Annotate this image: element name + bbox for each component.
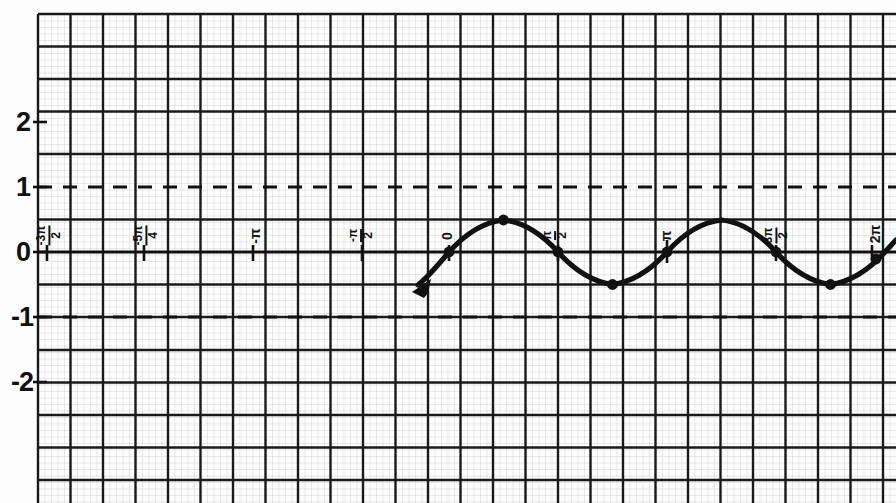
y-tick-label-negative-1: -1 [0, 304, 33, 331]
x-tick-numerator: -3π [36, 226, 47, 246]
x-tick-label-3pi-over-2: 3π 2 [763, 228, 790, 244]
x-tick-denominator: 2 [557, 231, 568, 240]
y-tick-label-1: 1 [0, 174, 30, 201]
plot-canvas [0, 0, 896, 503]
data-point-trough-1 [607, 279, 618, 290]
x-tick-label-pi-over-2: π 2 [542, 231, 569, 240]
x-tick-label-negative-pi-over-2: -π 2 [348, 229, 375, 242]
y-tick-label-2: 2 [0, 109, 30, 136]
x-tick-numerator: π [542, 231, 553, 240]
data-point-pi-over-2 [498, 215, 509, 226]
x-tick-label-negative-3pi-over-2: -3π 2 [36, 226, 63, 246]
x-tick-label-negative-5pi-over-4: -5π 4 [133, 226, 160, 246]
data-point-trough-2 [825, 279, 836, 290]
x-tick-numerator: -5π [133, 226, 144, 246]
x-tick-label-zero: 0 [439, 232, 455, 240]
data-point-pi [553, 247, 564, 258]
x-tick-numerator: 3π [763, 228, 774, 244]
data-point-3 [771, 247, 782, 258]
x-tick-label-2pi: 2π [867, 225, 883, 244]
data-point-right-edge [871, 254, 882, 265]
minor-gridlines [38, 14, 896, 503]
y-tick-label-negative-2: -2 [0, 369, 33, 396]
sine-curve-figure: 2 1 0 -1 -2 -3π 2 -5π 4 -π -π 2 [0, 0, 896, 503]
x-tick-label-pi: π [658, 231, 674, 242]
x-tick-denominator: 2 [363, 229, 374, 242]
x-tick-label-negative-pi: -π [247, 228, 263, 243]
y-tick-label-0: 0 [0, 239, 30, 266]
x-tick-denominator: 2 [51, 226, 62, 246]
x-tick-denominator: 2 [778, 228, 789, 244]
data-point-0 [444, 247, 455, 258]
x-tick-denominator: 4 [148, 226, 159, 246]
graph-page: 2 1 0 -1 -2 -3π 2 -5π 4 -π -π 2 [0, 0, 896, 503]
data-point-2 [662, 247, 673, 258]
x-tick-numerator: -π [348, 229, 359, 242]
